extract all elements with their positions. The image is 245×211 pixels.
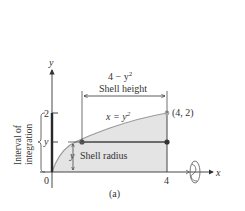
shell-radius-variable: y — [69, 150, 75, 161]
point-x4-at-y — [164, 139, 169, 144]
shell-height-expression: 4 − y2 — [108, 70, 133, 82]
interval-label-line1: Interval of — [13, 124, 23, 165]
point-4-2-label: (4, 2) — [172, 107, 194, 119]
origin-label: 0 — [44, 175, 49, 186]
shell-height-label: Shell height — [99, 83, 147, 94]
interval-label-line2: integration — [24, 124, 34, 165]
shell-method-diagram: y x 0 4 2 y x = y2 (4, 2) 4 − y2 Shell h… — [0, 0, 245, 211]
x-axis-label: x — [215, 167, 221, 178]
y-axis-label: y — [48, 57, 54, 68]
curve-label: x = y2 — [105, 110, 131, 122]
y-tick-y-label: y — [43, 136, 49, 147]
y-tick-2-label: 2 — [44, 108, 49, 119]
x-tick-4-label: 4 — [164, 175, 169, 186]
shell-radius-label: Shell radius — [80, 150, 128, 161]
figure-caption: (a) — [109, 188, 120, 200]
